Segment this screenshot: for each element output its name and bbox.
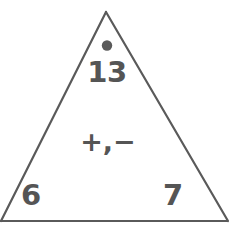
bottom-right-number: 7: [160, 181, 186, 210]
fact-family-triangle-figure: 13 +,− 6 7: [0, 0, 249, 231]
triangle-left-edge: [1, 12, 106, 221]
operations-label: +,−: [63, 128, 153, 155]
bottom-left-number: 6: [18, 181, 44, 210]
apex-dot-icon: [102, 40, 112, 50]
apex-number: 13: [85, 58, 129, 87]
